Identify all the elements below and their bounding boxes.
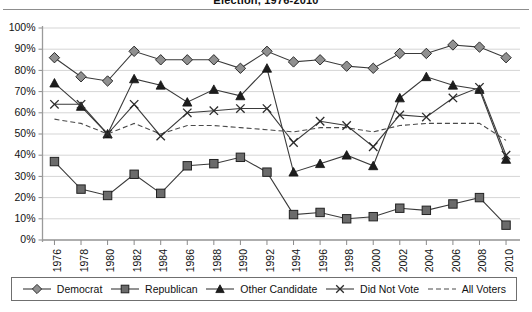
chart-legend: DemocratRepublicanOther CandidateDid Not…	[11, 277, 517, 301]
data-point-triangle	[130, 74, 139, 83]
data-point-square	[475, 193, 483, 201]
y-axis-label: 0%	[20, 233, 35, 245]
dashed-line-icon	[427, 283, 457, 295]
x-axis-label: 1996	[317, 249, 329, 273]
data-point-square	[369, 212, 377, 220]
data-point-square	[396, 204, 404, 212]
data-point-square	[77, 185, 85, 193]
x-axis-label: 2000	[370, 249, 382, 273]
x-axis-label: 1990	[237, 249, 249, 273]
data-point-diamond	[448, 40, 458, 50]
series-other-candidate	[50, 64, 511, 176]
x-axis-label: 1988	[211, 249, 223, 273]
data-point-triangle	[262, 64, 271, 73]
square-marker-icon	[110, 283, 140, 295]
x-axis-label: 2006	[450, 249, 462, 273]
data-point-triangle	[50, 79, 59, 88]
x-axis-label: 2002	[397, 249, 409, 273]
data-point-triangle	[395, 93, 404, 102]
y-axis-label: 90%	[14, 42, 35, 54]
data-point-square	[316, 208, 324, 216]
y-axis-label: 80%	[14, 64, 35, 76]
data-point-diamond	[315, 55, 325, 65]
data-point-triangle	[422, 72, 431, 81]
diamond-marker-icon	[22, 283, 52, 295]
chart-container: Election, 1976-2010 0%10%20%30%40%50%60%…	[0, 0, 532, 312]
x-axis-label: 1986	[184, 249, 196, 273]
series-republican	[50, 153, 510, 229]
data-point-diamond	[395, 48, 405, 58]
legend-item-democrat[interactable]: Democrat	[22, 283, 103, 295]
y-axis-label: 20%	[14, 191, 35, 203]
data-point-square	[157, 189, 165, 197]
data-point-square	[236, 153, 244, 161]
x-axis-label: 1980	[104, 249, 116, 273]
legend-item-label: All Voters	[462, 283, 506, 295]
legend-item-did-not-vote[interactable]: Did Not Vote	[325, 283, 419, 295]
legend-item-label: Other Candidate	[240, 283, 317, 295]
data-point-diamond	[288, 57, 298, 67]
chart-plot-area: 0%10%20%30%40%50%60%70%80%90%100%1976197…	[0, 0, 532, 312]
triangle-marker-icon	[205, 283, 235, 295]
data-point-diamond	[209, 55, 219, 65]
series-path	[54, 157, 506, 225]
data-point-diamond	[262, 46, 272, 56]
y-axis-label: 10%	[14, 212, 35, 224]
data-point-square	[183, 162, 191, 170]
legend-item-all-voters[interactable]: All Voters	[427, 283, 506, 295]
data-point-diamond	[421, 48, 431, 58]
y-axis-label: 70%	[14, 85, 35, 97]
data-point-triangle	[448, 81, 457, 90]
data-point-triangle	[289, 168, 298, 177]
legend-item-other-candidate[interactable]: Other Candidate	[205, 283, 317, 295]
legend-item-republican[interactable]: Republican	[110, 283, 198, 295]
y-axis-label: 30%	[14, 170, 35, 182]
x-marker-icon	[325, 283, 355, 295]
data-point-square	[449, 200, 457, 208]
data-point-diamond	[341, 61, 351, 71]
data-point-square	[289, 210, 297, 218]
x-axis-label: 1978	[78, 249, 90, 273]
data-point-square	[263, 168, 271, 176]
data-point-triangle	[183, 98, 192, 107]
x-axis-label: 1998	[343, 249, 355, 273]
series-path	[54, 68, 506, 172]
data-point-diamond	[182, 55, 192, 65]
data-point-square	[502, 221, 510, 229]
x-axis-label: 1982	[131, 249, 143, 273]
data-point-diamond	[235, 63, 245, 73]
x-axis-label: 2008	[476, 249, 488, 273]
data-point-diamond	[368, 63, 378, 73]
data-point-diamond	[76, 72, 86, 82]
x-axis-label: 2004	[423, 249, 435, 273]
legend-item-label: Republican	[145, 283, 198, 295]
data-point-triangle	[315, 159, 324, 168]
data-point-triangle	[369, 161, 378, 170]
data-point-square	[130, 170, 138, 178]
legend-item-label: Did Not Vote	[360, 283, 419, 295]
x-axis-label: 1984	[157, 249, 169, 273]
legend-item-label: Democrat	[57, 283, 103, 295]
data-point-triangle	[209, 85, 218, 94]
y-axis-label: 100%	[9, 21, 36, 33]
data-point-diamond	[49, 52, 59, 62]
data-point-square	[342, 215, 350, 223]
x-axis-label: 1976	[51, 249, 63, 273]
y-axis-label: 60%	[14, 106, 35, 118]
data-point-square	[103, 191, 111, 199]
data-point-square	[50, 157, 58, 165]
data-point-diamond	[156, 55, 166, 65]
data-point-diamond	[474, 42, 484, 52]
data-point-square	[210, 159, 218, 167]
y-axis-label: 50%	[14, 127, 35, 139]
y-axis-label: 40%	[14, 148, 35, 160]
x-axis-label: 1994	[290, 249, 302, 273]
series-path	[54, 45, 506, 81]
series-democrat	[49, 40, 511, 86]
x-axis-label: 1992	[264, 249, 276, 273]
x-axis-label: 2010	[503, 249, 515, 273]
data-point-diamond	[501, 52, 511, 62]
data-point-square	[422, 206, 430, 214]
